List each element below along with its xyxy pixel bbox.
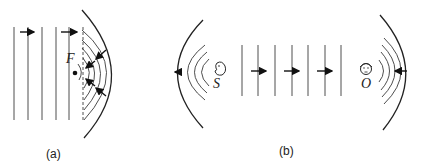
diagram-canvas [0, 0, 423, 166]
source-wavefronts [188, 45, 210, 100]
source-head-icon [215, 62, 226, 75]
focus-label: F [66, 51, 75, 67]
panel-a [14, 10, 112, 138]
observer-head-icon [360, 64, 372, 75]
concave-mirror-a [82, 10, 112, 138]
focus-point-icon [73, 71, 78, 76]
caption-b: (b) [279, 144, 294, 158]
left-mirror [178, 20, 204, 128]
source-label: S [213, 76, 220, 92]
panel-b [175, 15, 407, 130]
caption-a: (a) [46, 147, 61, 161]
observer-label: O [361, 76, 371, 92]
arrow-converge-icon [96, 88, 106, 96]
plane-wavefronts-a [14, 27, 83, 120]
converging-wavefronts-a [78, 30, 107, 120]
